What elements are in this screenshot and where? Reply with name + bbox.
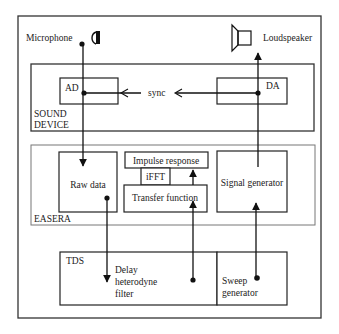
- sync-label: sync: [148, 88, 165, 98]
- rawdata-connection-dot: [104, 195, 109, 200]
- ad-label: AD: [65, 83, 79, 93]
- sweep-connection-dot: [254, 275, 260, 281]
- sweep-generator-label-line1: Sweep: [222, 276, 248, 286]
- impulse-response-label: Impulse response: [133, 156, 199, 166]
- tds-connection-dot: [190, 277, 195, 282]
- loudspeaker-icon: [232, 25, 251, 51]
- easera-label: EASERA: [34, 214, 71, 224]
- sweep-generator-label-line2: generator: [222, 288, 259, 298]
- signal-generator-label: Signal generator: [221, 178, 284, 188]
- sound-device-label-line2: DEVICE: [34, 120, 69, 130]
- da-connection-dot: [255, 90, 260, 95]
- loudspeaker-label: Loudspeaker: [263, 33, 313, 43]
- delay-filter-label-line3: filter: [115, 289, 134, 299]
- microphone-icon: [92, 31, 100, 44]
- tds-label: TDS: [66, 256, 84, 266]
- delay-filter-label-line1: Delay: [115, 265, 138, 275]
- signal-flow-diagram: SOUND DEVICE EASERA Microphone Loudspeak…: [0, 0, 339, 334]
- delay-filter-label-line2: heterodyne: [115, 277, 157, 287]
- ifft-label: iFFT: [146, 172, 165, 182]
- microphone-label: Microphone: [26, 33, 72, 43]
- mic-connection-dot: [79, 41, 84, 46]
- sound-device-label-line1: SOUND: [34, 109, 67, 119]
- da-label: DA: [266, 81, 280, 91]
- raw-data-label: Raw data: [70, 180, 106, 190]
- transfer-function-label: Transfer function: [132, 193, 198, 203]
